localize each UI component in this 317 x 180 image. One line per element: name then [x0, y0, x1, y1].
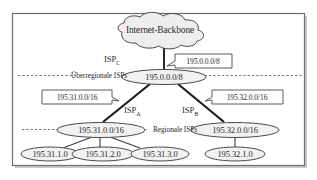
internet-backbone-label: Internet-Backbone: [126, 25, 194, 35]
isp-c-label: ISPC: [104, 54, 120, 66]
callout-left-prefix-label: 195.31.0.0/16: [57, 93, 98, 102]
node-regional-right-label: 195.32.0.0/16: [212, 125, 258, 135]
isp-b-subscript: B: [194, 110, 198, 117]
isp-a-label: ISPA: [124, 105, 141, 117]
node-national-label: 195.0.0.0/8: [145, 72, 182, 82]
callout-backbone-prefix-label: 195.0.0.0/8: [186, 57, 219, 66]
leaf-label-4: 195.32.1.0: [217, 149, 252, 159]
leaf-label-2: 195.31.2.0: [85, 149, 120, 159]
isp-b-name: ISP: [182, 105, 194, 115]
callout-right-prefix-label: 195.32.0.0/16: [227, 93, 268, 102]
isp-c-name: ISP: [104, 54, 116, 64]
isp-a-subscript: A: [136, 110, 140, 117]
leaf-label-1: 195.31.1.0: [32, 149, 67, 159]
isp-c-subscript: C: [116, 59, 120, 66]
leaf-label-3: 195.31.3.0: [142, 149, 177, 159]
isp-a-name: ISP: [124, 105, 136, 115]
tier-regional-label: Regionale ISPs: [153, 125, 197, 134]
node-regional-left-label: 195.31.0.0/16: [78, 125, 124, 135]
isp-b-label: ISPB: [182, 105, 198, 117]
diagram-canvas: Internet-Backbone ISPC Überregionale ISP…: [0, 0, 317, 180]
tier-national-label: Überregionale ISPs: [71, 71, 127, 80]
